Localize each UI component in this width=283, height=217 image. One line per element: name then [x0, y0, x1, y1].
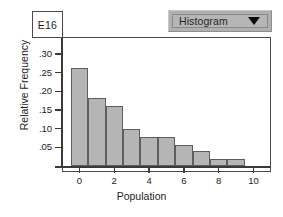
x-axis-tick-label: 4 — [137, 175, 161, 186]
y-axis-line — [61, 37, 63, 167]
x-axis-tick-label: 10 — [242, 175, 266, 186]
histogram-bar — [193, 151, 210, 166]
y-axis-tick-label: .05 — [24, 141, 52, 152]
histogram-bar — [140, 137, 157, 166]
x-axis-line — [55, 166, 271, 168]
histogram-bar — [71, 68, 88, 166]
chart-type-dropdown[interactable]: Histogram — [168, 10, 272, 32]
y-axis-tick — [55, 53, 61, 54]
y-axis-tick — [55, 72, 61, 73]
histogram-bar — [227, 159, 244, 166]
x-axis-title: Population — [0, 190, 283, 202]
x-axis-tick — [148, 167, 149, 173]
x-axis-tick — [114, 167, 115, 173]
y-axis-tick — [55, 109, 61, 110]
histogram-bar — [123, 129, 140, 166]
x-axis-tick-label: 6 — [172, 175, 196, 186]
y-axis-tick-label: .30 — [24, 48, 52, 59]
y-axis-tick — [55, 91, 61, 92]
x-axis-tick-label: 2 — [102, 175, 126, 186]
y-axis-tick-label: .20 — [24, 85, 52, 96]
histogram-bar — [210, 159, 227, 166]
histogram-bar — [158, 137, 175, 166]
chevron-down-icon[interactable] — [248, 17, 260, 25]
cell-reference-box[interactable]: E16 — [32, 11, 63, 38]
x-axis-tick — [253, 167, 254, 173]
histogram-bar — [106, 106, 123, 166]
chart-type-selected-value: Histogram — [179, 15, 228, 27]
x-axis-tick-label: 8 — [207, 175, 231, 186]
y-axis-tick — [55, 147, 61, 148]
cell-reference-label: E16 — [38, 19, 57, 31]
y-axis-tick-label: .10 — [24, 123, 52, 134]
chart-type-dropdown-inner[interactable]: Histogram — [172, 14, 268, 28]
histogram-bar — [175, 145, 192, 166]
y-axis-tick — [55, 128, 61, 129]
x-axis-tick-label: 0 — [67, 175, 91, 186]
y-axis-tick-label: .25 — [24, 67, 52, 78]
x-axis-tick — [218, 167, 219, 173]
histogram-bar — [88, 98, 105, 166]
y-axis-tick-label: .15 — [24, 104, 52, 115]
histogram-plot-area — [62, 41, 271, 166]
x-axis-tick — [79, 167, 80, 173]
x-axis-tick — [183, 167, 184, 173]
